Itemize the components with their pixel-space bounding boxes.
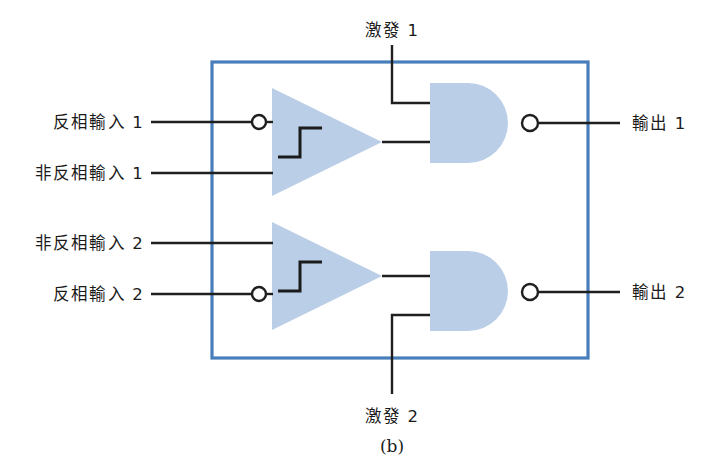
output-2-label: 輸出 2 (632, 283, 687, 302)
comparator-2-body (272, 222, 382, 330)
inverting-input-1-label: 反相輸入 1 (53, 113, 144, 132)
nand-gate-2-output-bubble (522, 284, 538, 300)
strobe-1-wire (392, 45, 430, 103)
strobe-2-label: 激發 2 (365, 407, 420, 426)
output-1-label: 輸出 1 (632, 114, 687, 133)
nand-gate-1-body (430, 83, 508, 163)
figure-caption: (b) (380, 436, 404, 456)
inverting-input-2-label: 反相輸入 2 (53, 285, 144, 304)
strobe-1-label: 激發 1 (365, 21, 420, 40)
nand-gate-1-output-bubble (522, 115, 538, 131)
ic-package-border (212, 62, 588, 358)
inverting-input-2-bubble (252, 287, 266, 301)
circuit-diagram: 反相輸入 1 非反相輸入 1 非反相輸入 2 反相輸入 2 激發 1 激發 2 … (0, 0, 725, 469)
comparator-1-body (272, 88, 382, 196)
figure-container: 反相輸入 1 非反相輸入 1 非反相輸入 2 反相輸入 2 激發 1 激發 2 … (0, 0, 725, 469)
inverting-input-1-bubble (252, 115, 266, 129)
nand-gate-2-body (430, 251, 508, 331)
noninverting-input-2-label: 非反相輸入 2 (35, 234, 144, 253)
noninverting-input-1-label: 非反相輸入 1 (35, 164, 144, 183)
strobe-2-wire (392, 315, 430, 394)
